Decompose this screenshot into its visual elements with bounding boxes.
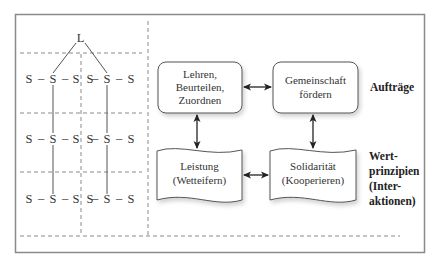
node-connector-dash: – <box>115 131 123 145</box>
student-node: S <box>50 192 57 206</box>
student-node: S <box>50 132 57 146</box>
node-connector-dash: – <box>61 131 69 145</box>
node-connector-dash: – <box>37 191 45 205</box>
box-bottom-right-line-2: (Kooperieren) <box>282 174 345 187</box>
node-connector-dash: – <box>37 71 45 85</box>
label-auftraege: Aufträge <box>370 81 414 94</box>
student-node: S <box>26 72 33 86</box>
student-node: S <box>104 132 111 146</box>
label-wertprinzipien-line-4: aktionen) <box>369 195 416 208</box>
node-connector-dash: – <box>91 71 99 85</box>
box-top-left-line-2: Beurteilen, <box>176 81 225 93</box>
label-wertprinzipien-line-2: prinzipien <box>369 165 420 178</box>
label-wertprinzipien-line-1: Wert- <box>369 150 398 162</box>
box-top-left-line-3: Zuordnen <box>179 94 222 106</box>
leader-node: L <box>77 31 85 45</box>
diagram-canvas: L SSSSSS––––SSSSSS––––SSSSSS–––– Lehren,… <box>0 0 437 264</box>
student-node: S <box>73 192 80 206</box>
student-node: S <box>128 192 135 206</box>
student-node: S <box>73 132 80 146</box>
node-connector-dash: – <box>91 191 99 205</box>
node-connector-dash: – <box>115 71 123 85</box>
node-connector-dash: – <box>61 71 69 85</box>
student-node: S <box>104 72 111 86</box>
student-node: S <box>73 72 80 86</box>
student-node: S <box>104 192 111 206</box>
node-connector-dash: – <box>91 131 99 145</box>
student-node: S <box>128 72 135 86</box>
box-top-right-line-1: Gemeinschaft <box>285 74 346 86</box>
box-top-left-line-1: Lehren, <box>183 68 217 80</box>
tree-line-left-branch <box>53 43 76 73</box>
box-bottom-left-line-1: Leistung <box>180 160 219 172</box>
tree-line-right-branch <box>85 43 107 73</box>
box-bottom-right-line-1: Solidarität <box>290 160 336 172</box>
box-top-right-line-2: fördern <box>299 88 332 100</box>
student-node: S <box>128 132 135 146</box>
box-bottom-left-line-2: (Wetteifern) <box>173 174 227 187</box>
student-node: S <box>50 72 57 86</box>
node-connector-dash: – <box>115 191 123 205</box>
student-node: S <box>26 192 33 206</box>
node-connector-dash: – <box>61 191 69 205</box>
student-node: S <box>26 132 33 146</box>
node-connector-dash: – <box>37 131 45 145</box>
label-wertprinzipien-line-3: (Inter- <box>369 180 401 193</box>
